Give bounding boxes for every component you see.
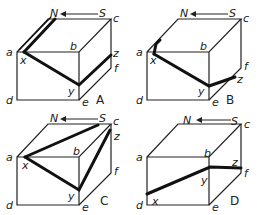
south-label: S — [99, 7, 106, 20]
label-c: c — [243, 12, 249, 25]
north-label: N — [180, 7, 188, 20]
label-c: c — [244, 118, 250, 131]
label-a: a — [136, 151, 143, 164]
label-z: z — [236, 73, 243, 86]
south-label: S — [231, 115, 238, 128]
north-label: N — [50, 112, 58, 125]
cube-diagram-a: N S c a x b z f y d e A — [0, 0, 130, 107]
label-c: c — [113, 12, 119, 25]
label-y: y — [67, 190, 75, 203]
label-c: c — [113, 115, 119, 128]
label-a: a — [6, 46, 13, 59]
label-f: f — [114, 165, 120, 178]
label-b: b — [70, 40, 77, 53]
label-b: b — [204, 147, 211, 160]
label-b: b — [73, 145, 80, 158]
label-y: y — [200, 174, 208, 187]
label-e: e — [212, 201, 219, 214]
north-label: N — [50, 7, 58, 20]
label-z: z — [112, 47, 119, 60]
label-a: a — [136, 46, 143, 59]
panel-a: N S c a x b z f y d e A — [0, 0, 130, 107]
south-label: S — [99, 112, 106, 125]
label-d: d — [136, 199, 144, 212]
label-f: f — [244, 167, 250, 180]
label-x: x — [151, 195, 159, 208]
label-x: x — [19, 54, 27, 67]
label-d: d — [6, 199, 14, 212]
north-label: N — [183, 114, 191, 127]
label-e: e — [82, 201, 89, 214]
cube-diagram-d: N S c a b z f y x d e D — [130, 105, 260, 212]
label-x: x — [149, 54, 157, 67]
cube-diagram-b: N S c a x b f z y d e B — [130, 0, 260, 107]
label-z: z — [231, 156, 238, 169]
panel-c: N S c z a x b f y d e C — [0, 105, 130, 212]
label-a: a — [6, 151, 13, 164]
label-f: f — [114, 62, 120, 75]
label-f: f — [244, 60, 250, 73]
label-y: y — [67, 85, 75, 98]
panel-d: N S c a b z f y x d e D — [130, 105, 260, 212]
label-b: b — [200, 40, 207, 53]
panel-b: N S c a x b f z y d e B — [130, 0, 260, 107]
label-x: x — [21, 159, 29, 172]
label-z: z — [113, 130, 120, 143]
cube-diagram-c: N S c z a x b f y d e C — [0, 105, 130, 212]
south-label: S — [229, 7, 236, 20]
caption-d: D — [230, 194, 239, 208]
label-y: y — [197, 85, 205, 98]
caption-c: C — [100, 194, 108, 208]
